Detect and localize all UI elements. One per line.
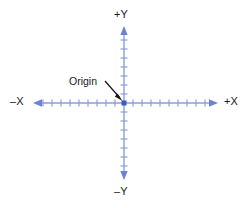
x-axis-negative-arrowhead (33, 99, 42, 106)
x-axis-positive-arrowhead (209, 99, 218, 106)
axes-svg (0, 0, 248, 208)
origin-annotation-label: Origin (69, 76, 97, 87)
origin-point-marker (122, 101, 127, 106)
axis-label-positive-x: +X (224, 96, 238, 107)
coordinate-axes-diagram: +Y –Y +X –X Origin (0, 0, 248, 208)
origin-annotation-arrow (105, 81, 123, 101)
axis-label-negative-x: –X (10, 96, 24, 107)
axis-label-positive-y: +Y (114, 9, 128, 20)
y-axis-negative-arrowhead (120, 171, 127, 180)
y-axis-positive-arrowhead (120, 26, 127, 35)
axis-label-negative-y: –Y (114, 186, 128, 197)
